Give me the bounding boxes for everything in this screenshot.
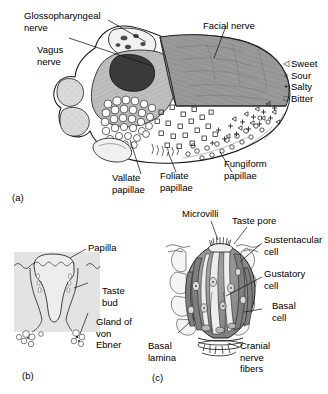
square-icon: □ — [282, 93, 290, 105]
legend-item-salty: + Salty — [282, 81, 317, 93]
panel-b-artwork — [14, 249, 100, 347]
plus-icon: + — [282, 81, 290, 93]
panel-label-c: (c) — [152, 372, 163, 383]
label-microvilli: Microvilli — [182, 208, 218, 220]
label-vagus-nerve: Vagus nerve — [37, 44, 97, 67]
gland-of-von-ebner — [16, 330, 85, 347]
label-cranial-nerve-fibers: Cranial nerve fibers — [240, 340, 286, 375]
label-facial-nerve: Facial nerve — [203, 20, 255, 32]
circle-icon: ○ — [282, 70, 290, 82]
label-sustentacular-cell: Sustentacular cell — [264, 234, 328, 257]
legend-item-bitter: □ Bitter — [282, 93, 317, 105]
label-gland-of-von-ebner: Gland of von Ebner — [96, 316, 156, 351]
label-fungiform-papillae: Fungiform papillae — [224, 158, 286, 181]
lingual-tonsil-lobe — [57, 79, 84, 107]
panel-label-a: (a) — [12, 192, 24, 203]
taste-modality-legend: ◁ Sweet ○ Sour + Salty □ Bitter — [282, 58, 317, 104]
legend-label-salty: Salty — [291, 81, 312, 92]
panel-c-artwork — [166, 221, 262, 356]
label-taste-pore: Taste pore — [232, 215, 276, 227]
label-glossopharyngeal-nerve: Glossopharyngeal nerve — [24, 10, 128, 33]
label-gustatory-cell: Gustatory cell — [264, 268, 324, 291]
legend-item-sweet: ◁ Sweet — [282, 58, 317, 70]
legend-label-sweet: Sweet — [291, 58, 317, 69]
label-vallate-papillae: Vallate papillae — [112, 172, 166, 195]
gustatory-cells — [201, 250, 234, 334]
figure-taste-anatomy: Glossopharyngeal nerve Vagus nerve Facia… — [0, 0, 328, 394]
label-taste-bud: Taste bud — [102, 285, 144, 308]
legend-label-sour: Sour — [291, 70, 311, 81]
legend-item-sour: ○ Sour — [282, 70, 317, 82]
label-basal-cell: Basal cell — [272, 300, 316, 323]
lingual-tonsil-lobe — [60, 107, 89, 136]
label-foliate-papillae: Foliate papillae — [160, 170, 212, 193]
panel-label-b: (b) — [22, 370, 34, 381]
label-papilla: Papilla — [88, 242, 117, 254]
legend-label-bitter: Bitter — [291, 93, 313, 104]
label-basal-lamina: Basal lamina — [148, 340, 192, 363]
triangle-left-icon: ◁ — [282, 58, 290, 70]
